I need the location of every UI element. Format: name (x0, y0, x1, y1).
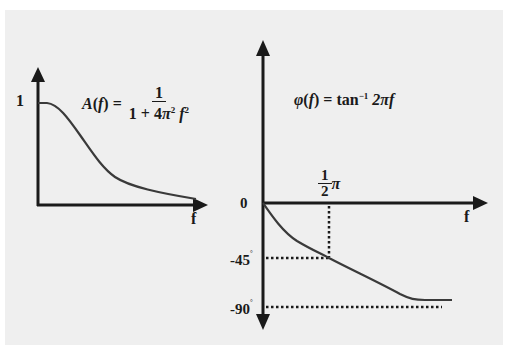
amplitude-fraction: 1 1 + 4π2 f2 (126, 85, 192, 122)
denominator-prefix: 1 + 4 (129, 105, 162, 122)
right-y-tick-minus45: -45° (230, 249, 253, 269)
half-pi-marker: 1 2 π (318, 168, 340, 199)
amplitude-formula: A(f) = 1 1 + 4π2 f2 (82, 85, 192, 122)
denominator-exp1: 2 (171, 105, 176, 115)
degree-symbol: ° (250, 298, 253, 306)
left-y-tick-1: 1 (16, 92, 24, 110)
right-x-axis-label: f (464, 208, 469, 226)
denominator-pi: π (162, 105, 171, 122)
formula-lhs-name: A (82, 95, 93, 113)
right-y-axis-top-arrow-icon (256, 40, 270, 56)
right-y-tick-0: 0 (240, 195, 248, 212)
phase-formula-fn: tan (336, 91, 358, 108)
right-x-axis-arrow-icon (473, 196, 488, 210)
half-pi-symbol: π (332, 175, 341, 193)
amplitude-denominator: 1 + 4π2 f2 (126, 102, 192, 122)
tick-minus90-label: -90 (230, 301, 250, 317)
right-y-tick-minus90: -90° (230, 298, 253, 318)
amplitude-numerator: 1 (152, 85, 166, 102)
phase-formula-exp: −1 (359, 91, 369, 101)
degree-symbol: ° (250, 249, 253, 257)
tick-minus45-label: -45 (230, 252, 250, 268)
half-denominator: 2 (318, 184, 332, 199)
right-y-axis-bottom-arrow-icon (256, 314, 270, 330)
phase-formula-arg: 2πf (372, 91, 394, 108)
left-x-axis-label: f (191, 210, 196, 228)
tick-0-label: 0 (240, 195, 248, 211)
half-numerator: 1 (318, 168, 332, 184)
denominator-exp2: 2 (184, 105, 189, 115)
half-fraction: 1 2 (318, 168, 332, 199)
phase-curve (263, 203, 452, 300)
plots-canvas (0, 0, 512, 352)
phase-formula: φ(f) = tan−1 2πf (294, 91, 394, 109)
left-y-axis-arrow-icon (31, 67, 45, 82)
phase-formula-lhs-name: φ (294, 91, 303, 108)
phase-plot (256, 40, 488, 330)
